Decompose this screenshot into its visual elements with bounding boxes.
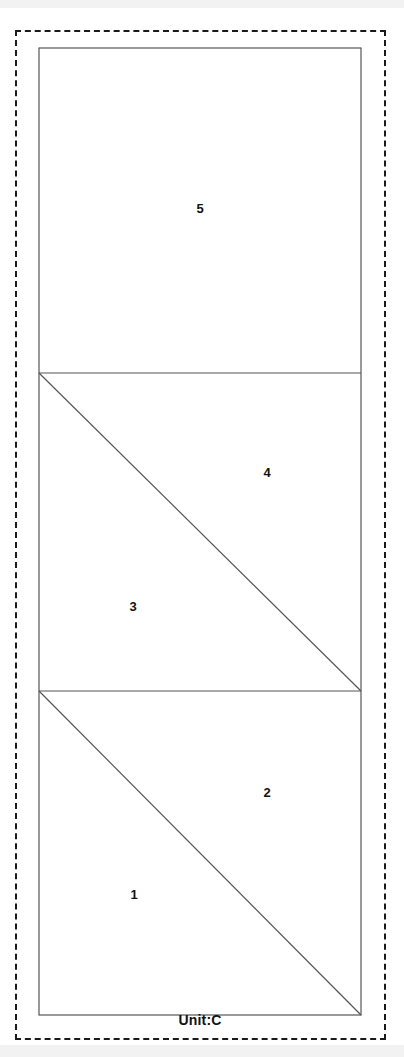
region-label-5: 5 [196, 201, 203, 216]
unit-caption: Unit:C [39, 1012, 361, 1028]
region-label-2: 2 [263, 785, 270, 800]
region-label-4: 4 [263, 465, 270, 480]
partition-figure [0, 0, 404, 1057]
figure-canvas: 5 4 3 2 1 Unit:C [0, 0, 404, 1057]
region-label-3: 3 [129, 599, 136, 614]
region-label-1: 1 [130, 887, 137, 902]
